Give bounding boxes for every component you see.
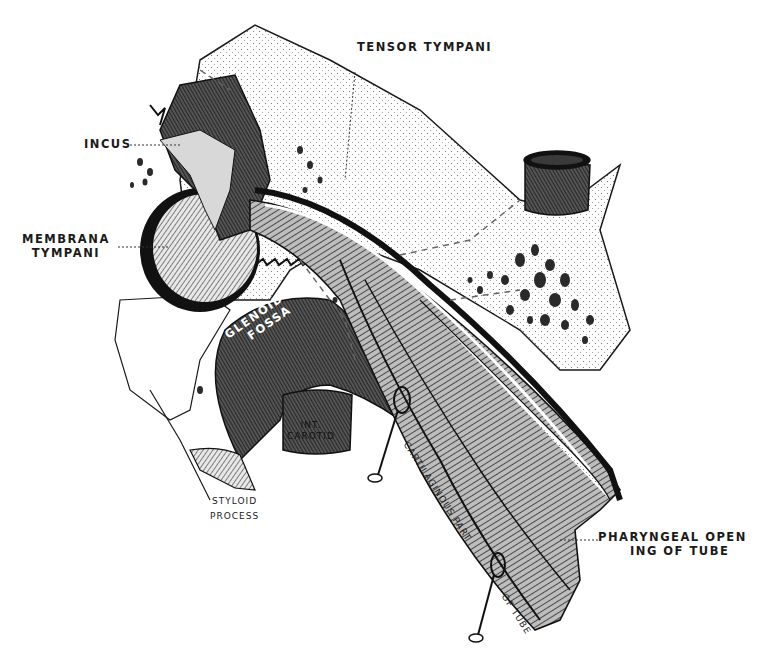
label-incus: INCUS bbox=[84, 137, 131, 151]
label-membrana-tympani-line-1: MEMBRANA bbox=[22, 232, 110, 246]
label-pharyngeal-opening: PHARYNGEAL OPEN ING OF TUBE bbox=[598, 530, 747, 559]
label-tensor-tympani: TENSOR TYMPANI bbox=[357, 40, 492, 54]
label-int-carotid-line-1: INT. bbox=[287, 420, 335, 431]
temporal-squama-lower bbox=[115, 295, 230, 420]
label-int-carotid: INT. CAROTID bbox=[287, 420, 335, 443]
label-pharyngeal-opening-line-1: PHARYNGEAL OPEN bbox=[598, 530, 747, 544]
carotid-canal-upper bbox=[524, 151, 590, 215]
label-membrana-tympani-line-2: TYMPANI bbox=[22, 246, 110, 260]
label-styloid-process-line-2: PROCESS bbox=[210, 509, 259, 524]
label-styloid-process: STYLOID PROCESS bbox=[210, 494, 259, 525]
label-styloid-process-line-1: STYLOID bbox=[210, 494, 259, 509]
label-membrana-tympani: MEMBRANA TYMPANI bbox=[22, 232, 110, 261]
label-pharyngeal-opening-line-2: ING OF TUBE bbox=[598, 544, 747, 558]
label-int-carotid-line-2: CAROTID bbox=[287, 431, 335, 442]
